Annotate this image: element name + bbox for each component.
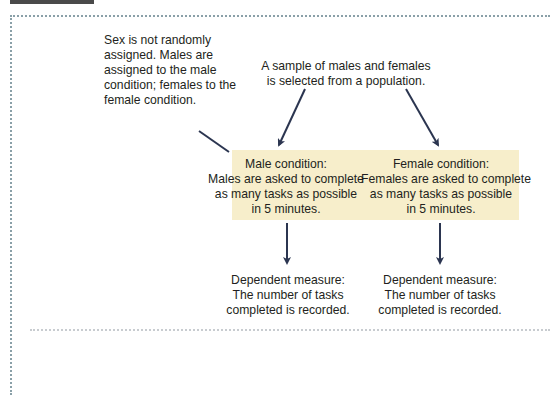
male-dependent-measure: Dependent measure: The number of tasks c… <box>223 273 353 318</box>
figure-frame-bottom-border <box>30 329 550 331</box>
dependent-measure-line: completed is recorded. <box>223 303 353 318</box>
condition-title: Male condition: <box>206 157 366 172</box>
condition-line: in 5 minutes. <box>361 202 521 217</box>
condition-line: as many tasks as possible <box>361 187 521 202</box>
dependent-measure-line: completed is recorded. <box>375 303 505 318</box>
condition-line: in 5 minutes. <box>206 202 366 217</box>
dependent-measure-line: The number of tasks <box>223 288 353 303</box>
note-line: female condition. <box>104 93 236 108</box>
note-line: assigned. Males are <box>104 48 236 63</box>
dependent-measure-title: Dependent measure: <box>375 273 505 288</box>
condition-title: Female condition: <box>361 157 521 172</box>
condition-line: Males are asked to complete <box>206 172 366 187</box>
female-dependent-measure: Dependent measure: The number of tasks c… <box>375 273 505 318</box>
condition-line: Females are asked to complete <box>361 172 521 187</box>
figure-header-tab <box>10 0 94 4</box>
dependent-measure-line: The number of tasks <box>375 288 505 303</box>
dependent-measure-title: Dependent measure: <box>223 273 353 288</box>
note-line: is selected from a population. <box>246 74 446 89</box>
note-sex-not-randomly-assigned: Sex is not randomly assigned. Males are … <box>104 33 236 108</box>
note-line: A sample of males and females <box>246 59 446 74</box>
sample-selection-note: A sample of males and females is selecte… <box>246 59 446 89</box>
female-condition: Female condition: Females are asked to c… <box>361 157 521 217</box>
note-line: assigned to the male <box>104 63 236 78</box>
note-line: Sex is not randomly <box>104 33 236 48</box>
condition-line: as many tasks as possible <box>206 187 366 202</box>
male-condition: Male condition: Males are asked to compl… <box>206 157 366 217</box>
note-line: condition; females to the <box>104 78 236 93</box>
